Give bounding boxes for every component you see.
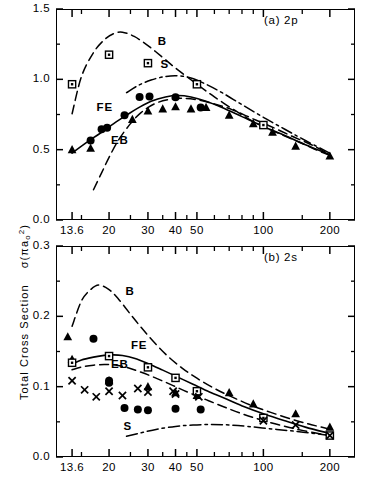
y-tick-label: 1.0 [12, 72, 50, 84]
y-tick-label: 0.1 [12, 380, 50, 392]
plot-overlay-2p [0, 0, 365, 232]
y-tick-label: 0.3 [12, 239, 50, 251]
y-tick-label: 0.0 [12, 450, 50, 462]
x-tick-label: 200 [305, 461, 355, 473]
plot-overlay-2s [0, 232, 365, 493]
panel-2p: (a) 2p 0.00.51.01.513.620304050100200BSF… [0, 0, 365, 232]
panel-2s: (b) 2s Incident Electron Energy E(eV) 0.… [0, 232, 365, 493]
y-tick-label: 0.5 [12, 143, 50, 155]
points-filled-triangle-data [63, 332, 334, 431]
y-tick-label: 1.5 [12, 2, 50, 14]
curve-label-B: B [158, 35, 167, 47]
x-tick-label: 50 [172, 461, 222, 473]
panel-title-2s: (b) 2s [264, 251, 298, 263]
curve-label-EB: EB [111, 134, 129, 146]
panel-title-2p: (a) 2p [264, 14, 298, 26]
curve-label-FE: FE [131, 339, 147, 351]
curve-label-FE: FE [97, 101, 113, 113]
x-tick-label: 100 [238, 461, 288, 473]
figure-root: Total Cross Sectionσ(πao2) (a) 2p 0.00.5… [0, 0, 365, 493]
y-tick-label: 0.0 [12, 213, 50, 225]
curve-label-B: B [125, 285, 134, 297]
y-tick-label: 0.2 [12, 309, 50, 321]
points-filled-circle-data [87, 92, 205, 144]
curve-label-EB: EB [111, 358, 129, 370]
curve-label-S: S [124, 420, 132, 432]
curve-label-S: S [160, 58, 168, 70]
